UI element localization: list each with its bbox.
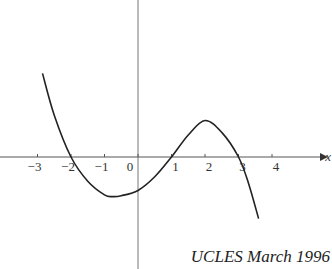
curve-line <box>43 73 259 218</box>
x-axis-label: x <box>324 149 331 164</box>
x-tick-label: 2 <box>206 159 213 174</box>
chart: x −3−2−101234 UCLES March 1996 <box>0 0 332 269</box>
x-tick-label: −3 <box>28 159 42 174</box>
x-tick-label: 1 <box>172 159 179 174</box>
x-tick-label: 4 <box>273 159 280 174</box>
source-caption: UCLES March 1996 <box>191 247 331 266</box>
x-tick-label: −1 <box>95 159 109 174</box>
chart-svg: x −3−2−101234 UCLES March 1996 <box>0 0 332 269</box>
x-tick-label: 0 <box>127 159 134 174</box>
